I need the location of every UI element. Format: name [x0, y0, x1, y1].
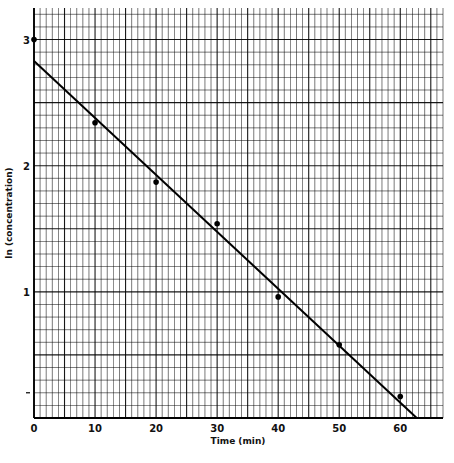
x-tick-label: 40 [271, 423, 285, 434]
ln-concentration-vs-time-chart: 0102030405060 123 Time (min) ln (concent… [0, 0, 454, 463]
y-axis-label: ln (concentration) [4, 167, 14, 258]
x-axis-label: Time (min) [211, 436, 266, 446]
x-tick-labels: 0102030405060 [31, 423, 408, 434]
x-tick-label: 60 [393, 423, 407, 434]
x-tick-label: 50 [332, 423, 346, 434]
x-tick-label: 20 [149, 423, 163, 434]
data-point [397, 394, 403, 400]
data-point [153, 179, 159, 185]
data-point [92, 120, 98, 126]
x-tick-label: 0 [31, 423, 38, 434]
y-tick-labels: 123 [23, 35, 30, 393]
y-tick-label: 1 [23, 287, 30, 298]
data-point [336, 342, 342, 348]
x-tick-label: 30 [210, 423, 224, 434]
y-tick-label: 2 [23, 161, 30, 172]
grid [34, 8, 443, 418]
data-point [31, 37, 37, 43]
y-tick-label: 3 [23, 35, 30, 46]
fit-line [34, 61, 417, 418]
data-point [214, 221, 220, 227]
data-point [275, 294, 281, 300]
x-tick-label: 10 [88, 423, 102, 434]
